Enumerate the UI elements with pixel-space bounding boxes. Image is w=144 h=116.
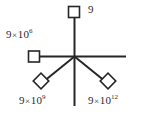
square-marker-left [29, 51, 40, 62]
label-bottom-left-value: 9×109 [19, 95, 46, 106]
label-bottom-right-base: 10 [100, 94, 111, 106]
radial-star-diagram: 9 9×106 9×109 9×1012 [0, 0, 144, 116]
label-bottom-right-exponent: 12 [111, 93, 118, 101]
label-left-mantissa: 9 [6, 28, 12, 40]
label-bottom-left-exponent: 9 [42, 93, 46, 101]
label-bottom-right-value: 9×1012 [88, 95, 118, 106]
label-left-exponent: 6 [29, 27, 33, 35]
diamond-marker-bottom-left [33, 73, 49, 89]
label-left-base: 10 [18, 28, 29, 40]
label-bottom-left-base: 10 [31, 94, 42, 106]
label-bottom-right-mantissa: 9 [88, 94, 94, 106]
square-marker-top [69, 7, 80, 18]
diamond-marker-bottom-right [100, 73, 116, 89]
axis-line-down-right [75, 57, 107, 83]
axis-line-down-left [43, 57, 75, 83]
label-bottom-left-mantissa: 9 [19, 94, 25, 106]
label-top-value: 9 [88, 4, 94, 15]
label-left-value: 9×106 [6, 29, 33, 40]
label-top-mantissa: 9 [88, 3, 94, 15]
